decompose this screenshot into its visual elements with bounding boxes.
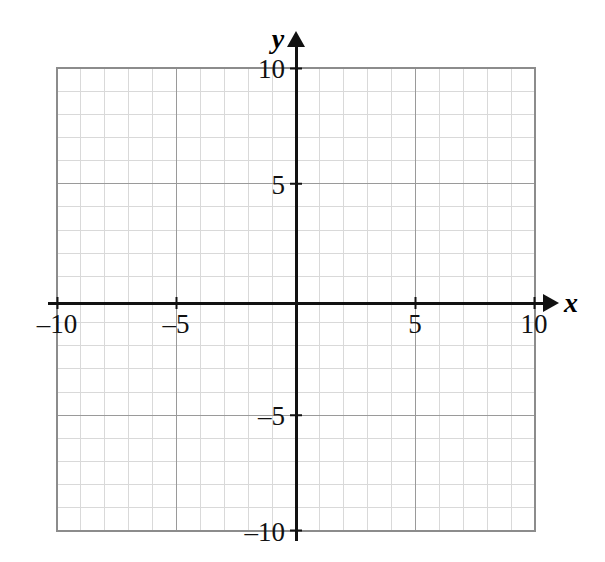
y-tick-label-10: 10 [258, 54, 285, 84]
y-tick-label-neg10: –10 [244, 517, 286, 547]
coordinate-plane: 10 5 –5 –10 –10 –5 5 10 y x [0, 0, 605, 562]
x-tick-label-10: 10 [521, 309, 548, 339]
x-axis-label: x [563, 287, 578, 318]
x-tick-label-neg5: –5 [162, 309, 190, 339]
y-tick-label-5: 5 [272, 170, 286, 200]
coordinate-grid-svg: 10 5 –5 –10 –10 –5 5 10 y x [0, 0, 605, 562]
y-axis-label: y [269, 23, 285, 54]
y-axis-arrowhead [287, 31, 305, 47]
y-tick-label-neg5: –5 [257, 401, 285, 431]
x-tick-label-neg10: –10 [36, 309, 78, 339]
x-tick-label-5: 5 [408, 309, 422, 339]
